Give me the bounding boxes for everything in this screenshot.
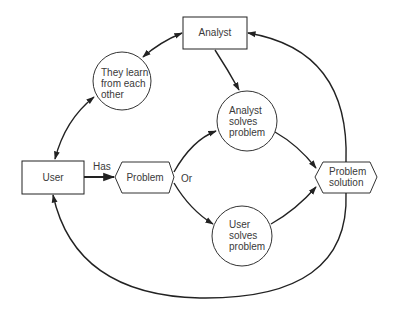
edge-problem-to-user-solves — [174, 183, 213, 224]
learn-label-line-2: from each — [101, 78, 151, 89]
analyst-solves-line-1: Analyst — [229, 105, 274, 116]
user-solves-line-2: solves — [229, 230, 274, 241]
edge-problem-to-analyst-solves — [174, 131, 216, 172]
user-label: User — [22, 172, 84, 183]
analyst-solves-label: Analyst solves problem — [229, 105, 274, 138]
learn-label-line-3: other — [101, 89, 151, 100]
analyst-solves-line-3: problem — [229, 127, 274, 138]
has-label: Has — [93, 161, 111, 172]
user-solves-label: User solves problem — [229, 219, 274, 252]
edge-user-solves-to-solution — [271, 187, 316, 224]
problem-label: Problem — [118, 172, 172, 183]
edge-solution-to-user — [53, 193, 346, 298]
edge-learn-user — [55, 97, 94, 159]
analyst-solves-line-2: solves — [229, 116, 274, 127]
solution-label: Problem solution — [329, 166, 374, 188]
analyst-label: Analyst — [183, 27, 247, 38]
user-solves-line-3: problem — [229, 241, 274, 252]
edge-analyst-to-analyst-solves — [215, 50, 239, 90]
learn-label-line-1: They learn — [101, 67, 151, 78]
edge-analyst-solves-to-solution — [275, 132, 316, 168]
user-solves-line-1: User — [229, 219, 274, 230]
diagram-canvas — [0, 0, 395, 313]
or-label: Or — [181, 173, 192, 184]
solution-line-2: solution — [329, 177, 374, 188]
solution-line-1: Problem — [329, 166, 374, 177]
learn-label: They learn from each other — [101, 67, 151, 100]
edge-learn-analyst — [143, 33, 182, 57]
